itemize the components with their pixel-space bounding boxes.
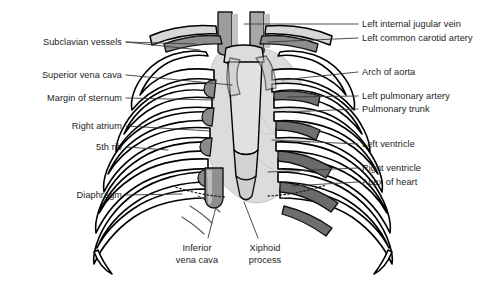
label-xiphoid-process-line2: process: [249, 255, 282, 265]
label-inferior-vena-cava: Inferior vena cava: [164, 243, 230, 266]
label-margin-of-sternum: Margin of sternum: [0, 93, 122, 105]
label-left-common-carotid-artery: Left common carotid artery: [362, 33, 473, 45]
label-xiphoid-process: Xiphoid process: [232, 243, 298, 266]
label-subclavian-vessels: Subclavian vessels: [0, 37, 122, 49]
leader-xiphoid-process: [244, 202, 258, 238]
label-arch-of-aorta: Arch of aorta: [362, 67, 415, 79]
label-left-pulmonary-artery: Left pulmonary artery: [362, 91, 450, 103]
label-right-atrium: Right atrium: [0, 121, 122, 133]
label-5th-rib: 5th rib: [0, 142, 122, 154]
label-apex-of-heart: Apex of heart: [362, 177, 417, 189]
label-left-internal-jugular-vein: Left internal jugular vein: [362, 19, 461, 31]
label-pulmonary-trunk: Pulmonary trunk: [362, 104, 430, 116]
label-right-ventricle: Right ventricle: [362, 163, 421, 175]
leader-inferior-vena-cava: [208, 207, 216, 238]
inferior-vena-cava-shape: [205, 168, 223, 208]
label-superior-vena-cava: Superior vena cava: [0, 70, 122, 82]
label-left-ventricle: Left ventricle: [362, 139, 415, 151]
ribs-left: [94, 51, 214, 274]
diagram-canvas: Subclavian vessels Superior vena cava Ma…: [0, 0, 499, 281]
label-diaphragm: Diaphragm: [0, 190, 122, 202]
label-xiphoid-process-line1: Xiphoid: [250, 243, 281, 253]
label-inferior-vena-cava-line1: Inferior: [183, 243, 212, 253]
label-inferior-vena-cava-line2: vena cava: [176, 255, 218, 265]
